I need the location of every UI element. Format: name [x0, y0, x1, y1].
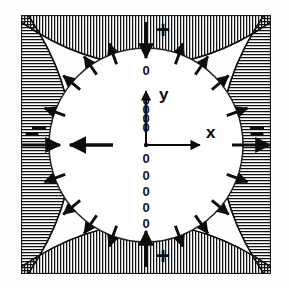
physics-diagram: 0000000000 y x + + ––: [0, 0, 289, 288]
zero-glyph: 0: [142, 151, 149, 166]
zero-glyph: 0: [142, 200, 149, 215]
figure-container: 0000000000 y x + + ––: [0, 0, 289, 288]
x-axis-label: x: [206, 123, 216, 142]
zero-glyph: 0: [142, 168, 149, 183]
y-axis-label: y: [159, 85, 169, 104]
zero-glyph: 0: [142, 184, 149, 199]
zero-glyph: 0: [142, 63, 149, 78]
origin-dot: [144, 143, 148, 147]
zero-glyph: 0: [142, 120, 149, 135]
left-minus: –: [25, 117, 39, 147]
right-minus: –: [250, 117, 264, 147]
zero-glyph: 0: [142, 216, 149, 231]
top-plus-sign: +: [156, 16, 170, 43]
bottom-plus-sign: +: [156, 242, 170, 269]
